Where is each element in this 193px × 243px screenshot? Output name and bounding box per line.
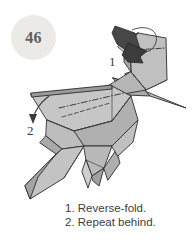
tail-lower-left-panel — [25, 146, 84, 199]
caption-line-1: 1. Reverse-fold. — [65, 201, 193, 215]
callout-label-2: 2 — [27, 123, 34, 139]
step-number: 46 — [11, 15, 56, 60]
callout-label-1: 1 — [109, 54, 116, 70]
caption-line-2: 2. Repeat behind. — [65, 215, 193, 229]
origami-step-page: 46 1 2 1. Reverse-fold. 2. Repeat behind… — [0, 0, 193, 243]
